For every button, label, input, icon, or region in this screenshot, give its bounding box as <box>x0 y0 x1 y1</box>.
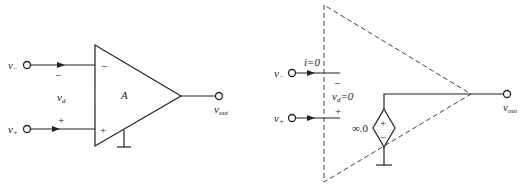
pin-plus-sign: + <box>100 124 106 136</box>
current-arrow-icon <box>57 62 65 68</box>
inverting-input-terminal[interactable] <box>289 70 296 77</box>
diff-minus-sign: − <box>55 69 61 81</box>
source-minus-sign: − <box>380 131 386 143</box>
noninverting-input-terminal[interactable] <box>24 126 31 133</box>
current-arrow-icon <box>52 126 60 132</box>
pin-minus-sign: − <box>101 60 107 72</box>
diff-plus-sign: + <box>335 105 341 117</box>
output-label: vout <box>503 101 518 115</box>
diff-minus-sign: − <box>334 77 340 89</box>
current-label: i=0 <box>304 56 320 68</box>
diff-plus-sign: + <box>58 114 64 126</box>
diff-voltage-label: vd=0 <box>332 90 354 104</box>
current-arrow-icon <box>307 115 315 121</box>
left-opamp-diagram: v− v+ − vd + A − + vout <box>8 45 229 147</box>
circuit-canvas: v− v+ − vd + A − + vout v− v+ i=0 − vd=0 <box>0 0 521 193</box>
diff-voltage-label: vd <box>57 91 66 105</box>
inverting-input-terminal[interactable] <box>24 62 31 69</box>
current-arrow-icon <box>307 70 315 76</box>
source-output-wire <box>384 94 471 109</box>
output-terminal[interactable] <box>216 93 223 100</box>
opamp-triangle <box>95 45 181 146</box>
noninverting-input-terminal[interactable] <box>289 115 296 122</box>
right-ideal-opamp-diagram: v− v+ i=0 − vd=0 + ∞.0 + − vout <box>274 5 518 182</box>
source-plus-sign: + <box>380 117 386 129</box>
output-terminal[interactable] <box>504 91 511 98</box>
inverting-input-label: v− <box>274 67 284 81</box>
noninverting-input-label: v+ <box>8 123 18 137</box>
gain-label: A <box>120 89 128 101</box>
inverting-input-label: v− <box>8 59 18 73</box>
noninverting-input-label: v+ <box>274 112 284 126</box>
output-label: vout <box>214 103 229 117</box>
source-gain-label: ∞.0 <box>352 122 369 134</box>
